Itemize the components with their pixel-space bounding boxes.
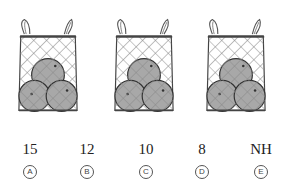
- choice-letter-circle[interactable]: D: [195, 165, 209, 179]
- choice-letter-circle[interactable]: C: [139, 165, 153, 179]
- choice-value: 8: [182, 140, 222, 158]
- choice-value: 10: [126, 140, 166, 158]
- choice-letter-circle[interactable]: B: [80, 165, 94, 179]
- net-bag-3: [196, 10, 276, 120]
- choice-letter-circle[interactable]: E: [254, 165, 268, 179]
- choice-value: NH: [241, 140, 281, 158]
- choice-a[interactable]: 15 A: [10, 140, 50, 179]
- choice-e[interactable]: NH E: [241, 140, 281, 179]
- net-bag-2: [104, 10, 184, 120]
- oranges-in-net-bag-icon: [104, 10, 184, 120]
- oranges-in-net-bag-icon: [8, 10, 88, 120]
- choice-value: 12: [67, 140, 107, 158]
- net-bag-1: [8, 10, 88, 120]
- choice-b[interactable]: 12 B: [67, 140, 107, 179]
- choice-c[interactable]: 10 C: [126, 140, 166, 179]
- oranges-in-net-bag-icon: [196, 10, 276, 120]
- choice-value: 15: [10, 140, 50, 158]
- choice-letter-circle[interactable]: A: [23, 165, 37, 179]
- choice-d[interactable]: 8 D: [182, 140, 222, 179]
